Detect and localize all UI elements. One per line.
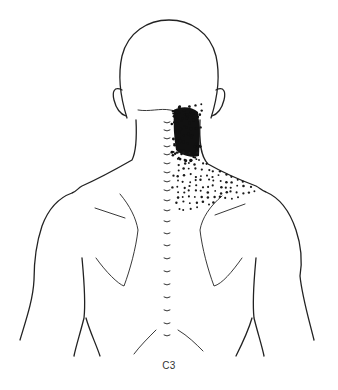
left-scapula-spine (95, 208, 125, 218)
left-lower-back-line (134, 330, 156, 354)
body-illustration (0, 0, 338, 390)
right-neck-shoulder-outline (200, 120, 314, 340)
head-outline (120, 20, 218, 118)
left-neck-shoulder-outline (20, 120, 136, 340)
right-lower-back-line (178, 330, 203, 351)
left-arm-line-inner (86, 318, 100, 356)
spinous-processes (164, 122, 170, 336)
left-arm-line-outer (74, 258, 85, 356)
right-arm-line-outer (253, 258, 264, 356)
right-ear-icon (212, 89, 225, 116)
left-scapula-outline (96, 194, 138, 286)
c3-referral-figure (0, 0, 338, 390)
right-arm-line-inner (236, 318, 252, 356)
right-scapula-spine (215, 204, 245, 215)
right-scapula-outline (200, 196, 242, 286)
figure-caption: C3 (0, 360, 338, 371)
stipple-referral-area (171, 151, 255, 211)
left-ear-icon (113, 89, 126, 116)
